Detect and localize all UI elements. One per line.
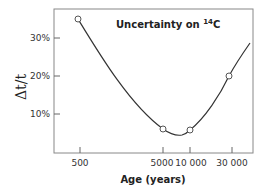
marker-10000 [187, 127, 193, 133]
x-tick-30000: 30 000 [216, 158, 248, 168]
y-ticks: 30% 20% 10% [30, 33, 60, 119]
data-markers [75, 16, 232, 133]
uncertainty-curve [78, 19, 250, 135]
y-axis-label: Δt/t [13, 74, 29, 100]
x-tick-5000: 5000 [151, 158, 174, 168]
marker-500 [75, 16, 81, 22]
marker-30000 [226, 73, 232, 79]
x-ticks: 500 5000 10 000 30 000 [71, 147, 248, 168]
y-tick-20: 20% [30, 71, 50, 81]
x-tick-10000: 10 000 [175, 158, 207, 168]
marker-5000 [160, 126, 166, 132]
chart: 30% 20% 10% 500 5000 10 000 30 000 Δt/t … [0, 0, 266, 193]
y-tick-30: 30% [30, 33, 50, 43]
chart-title: Uncertainty on 14C [116, 18, 220, 30]
x-tick-500: 500 [71, 158, 88, 168]
x-axis-label: Age (years) [120, 174, 185, 185]
y-tick-10: 10% [30, 109, 50, 119]
plot-frame [54, 9, 253, 153]
